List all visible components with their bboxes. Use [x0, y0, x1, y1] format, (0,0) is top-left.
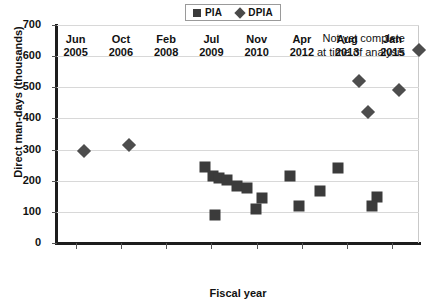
chart-annotation: Not yet complete at time of analysis [317, 32, 405, 59]
data-point-pia [251, 203, 262, 214]
x-axis-tick [121, 243, 122, 249]
legend-label-pia: PIA [205, 7, 222, 18]
data-point-dpia [351, 74, 365, 88]
x-axis-tick [211, 243, 212, 249]
data-point-pia [231, 180, 242, 191]
x-axis-tick [392, 243, 393, 249]
legend-item-dpia: DPIA [236, 7, 273, 18]
square-marker-icon [193, 9, 201, 17]
chart-legend: PIA DPIA [185, 4, 281, 21]
data-point-pia [367, 200, 378, 211]
x-axis-tick [347, 243, 348, 249]
y-axis-tick [52, 243, 57, 244]
y-axis-tick [52, 150, 57, 151]
y-axis-tick-label: 0 [1, 236, 41, 248]
gridline [57, 212, 419, 213]
data-point-pia [315, 186, 326, 197]
y-axis-tick [52, 25, 57, 26]
legend-label-dpia: DPIA [248, 7, 273, 18]
data-point-pia [242, 183, 253, 194]
y-axis-tick [52, 212, 57, 213]
annotation-line-1: Not yet complete [317, 32, 405, 46]
data-point-dpia [77, 143, 91, 157]
scatter-chart: PIA DPIA 0100200300400500600700Jun2005Oc… [0, 0, 428, 305]
gridline [57, 118, 419, 119]
data-point-pia [294, 200, 305, 211]
y-axis-tick [52, 181, 57, 182]
legend-item-pia: PIA [193, 7, 222, 18]
x-axis-title: Fiscal year [57, 287, 419, 299]
data-point-pia [285, 171, 296, 182]
y-axis-tick-label: 100 [1, 205, 41, 217]
data-point-dpia [392, 83, 406, 97]
diamond-marker-icon [235, 7, 246, 18]
data-point-pia [333, 163, 344, 174]
gridline [57, 25, 419, 26]
y-axis-tick [52, 87, 57, 88]
data-point-pia [209, 209, 220, 220]
gridline [57, 87, 419, 88]
gridline [57, 150, 419, 151]
annotation-line-2: at time of analysis [317, 46, 405, 60]
x-axis-tick [166, 243, 167, 249]
x-axis-tick [76, 243, 77, 249]
x-axis-tick [302, 243, 303, 249]
x-axis-tick [257, 243, 258, 249]
data-point-pia [256, 192, 267, 203]
data-point-dpia [361, 104, 375, 118]
y-axis-title: Direct man-days (thousands) [12, 2, 24, 202]
y-axis-tick [52, 118, 57, 119]
